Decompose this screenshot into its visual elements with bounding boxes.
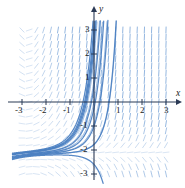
x-tick-label--1: -1 bbox=[63, 106, 71, 115]
y-tick-label--2: -2 bbox=[80, 145, 88, 154]
x-tick-label-3: 3 bbox=[164, 106, 169, 115]
x-tick-label-1: 1 bbox=[116, 106, 121, 115]
x-axis-label: x bbox=[176, 89, 180, 98]
x-tick-label--3: -3 bbox=[15, 106, 23, 115]
x-tick-label-2: 2 bbox=[140, 106, 145, 115]
direction-field-figure: -3 -2 -1 1 2 3 3 2 1 -1 -2 -3 x y bbox=[0, 0, 185, 188]
y-tick-label--1: -1 bbox=[80, 121, 88, 130]
x-tick-label--2: -2 bbox=[39, 106, 47, 115]
y-tick-label-2: 2 bbox=[85, 49, 90, 58]
y-axis-label: y bbox=[99, 5, 103, 14]
plot-canvas bbox=[0, 0, 185, 188]
y-tick-label-1: 1 bbox=[85, 73, 90, 82]
solution-curve-3 bbox=[13, 21, 96, 154]
y-tick-label-3: 3 bbox=[85, 25, 90, 34]
y-tick-label--3: -3 bbox=[80, 169, 88, 178]
solution-curve-2 bbox=[13, 22, 95, 154]
